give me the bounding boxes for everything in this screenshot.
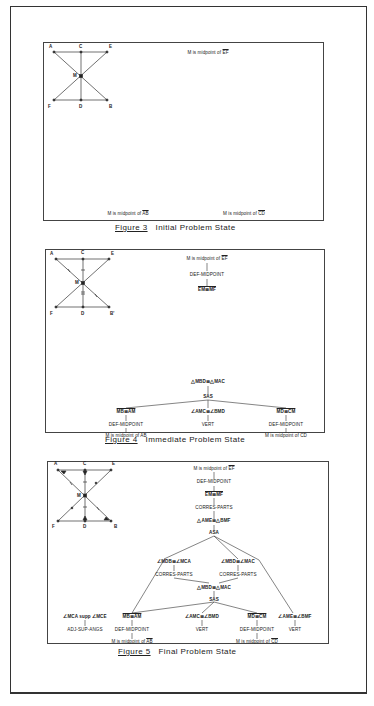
goal-triangle-congruence: △MBD≅△MAC [191, 379, 225, 385]
point-label-a: A [54, 461, 57, 466]
given-ab: M is midpoint of AB [111, 639, 152, 645]
point-label-b: B [114, 524, 117, 529]
rule-corres-parts-left: CORRES-PARTS [155, 572, 192, 578]
given-cd: M is midpoint of CD [265, 433, 307, 439]
rule-vert: VERT [202, 422, 215, 428]
rule-def-midpoint: DEF-MIDPOINT [190, 272, 224, 278]
given-cd: M is midpoint of CD [223, 211, 265, 217]
point-label-m: M [77, 493, 81, 498]
given-cd: M is midpoint of CD [236, 639, 278, 645]
statement-mb-am: MB≅AM [123, 614, 142, 620]
point-label-c: C [81, 250, 84, 255]
statement-mb-am: MB≅AM [117, 409, 136, 415]
statement-triangle-mbd-mac: △MBD≅△MAC [197, 585, 231, 591]
statement-md-cm: MD≅CM [277, 409, 296, 415]
point-label-e: E [111, 251, 114, 256]
point-label-d: D [81, 311, 84, 316]
rule-corres-parts-top: CORRES-PARTS [195, 505, 232, 511]
rule-asa: ASA [209, 530, 219, 536]
statement-angle-ame-bmf: ∠AME≅∠BMF [278, 614, 311, 620]
point-label-c: C [79, 44, 82, 49]
point-label-f: F [52, 524, 55, 529]
rule-def-midpoint-right: DEF-MIDPOINT [269, 422, 303, 428]
rule-def-midpoint-left: DEF-MIDPOINT [109, 422, 143, 428]
point-label-f: F [50, 311, 53, 316]
point-label-e: E [109, 44, 112, 49]
statement-angle-mbd-mac: ∠MBD≅∠MAC [221, 559, 255, 565]
rule-adj-sup-angs: ADJ-SUP-ANGS [67, 627, 102, 633]
point-label-e: E [112, 461, 115, 466]
rule-sas: SAS [209, 597, 219, 603]
point-label-d: D [83, 524, 86, 529]
point-label-b: B' [110, 311, 114, 316]
figure-4-geometry [46, 250, 326, 434]
rule-vert-right: VERT [289, 627, 302, 633]
rule-sas: SAS [203, 394, 213, 400]
figure-4-panel: A C E M F D B' M is midpoint of EF DEF-M… [45, 249, 325, 433]
point-label-b: B [109, 104, 112, 109]
point-label-c: C [83, 461, 86, 466]
given-ab: M is midpoint of AB [107, 211, 148, 217]
rule-def-midpoint-right: DEF-MIDPOINT [240, 627, 274, 633]
statement-md-cm: MD≅CM [248, 614, 267, 620]
given-ef: M is midpoint of EF [187, 50, 228, 56]
statement-angle-mca-supp-mce: ∠MCA supp ∠MCE [63, 614, 106, 620]
statement-angle-amc-bmd: ∠AMC≅∠BMD [191, 409, 225, 415]
statement-angle-amc-bmd: ∠AMC≅∠BMD [185, 614, 219, 620]
statement-triangle-ame-bmf: △AME≅△BMF [197, 518, 230, 524]
figure-3-geometry [44, 43, 325, 222]
point-label-d: D [79, 104, 82, 109]
point-label-a: A [49, 44, 52, 49]
rule-def-midpoint-top: DEF-MIDPOINT [197, 479, 231, 485]
point-label-f: F [48, 104, 51, 109]
given-ef: M is midpoint of EF [193, 466, 234, 472]
figure-5-panel: A C E M F D B M is midpoint of EF DEF-MI… [47, 461, 329, 644]
point-label-a: A [50, 251, 53, 256]
figure-3-panel: A C E M F D B M is midpoint of EF M is m… [43, 42, 324, 221]
figure-3-caption: Figure 3Initial Problem State [115, 223, 236, 232]
point-label-m: M [73, 73, 77, 78]
point-label-m: M [75, 280, 79, 285]
statement-angle-mdb-mca: ∠MDB≅∠MCA [157, 559, 191, 565]
rule-corres-parts-right: CORRES-PARTS [219, 572, 256, 578]
figure-4-caption: Figure 4Immediate Problem State [105, 435, 245, 444]
statement-em-mf: EM≅MF [198, 287, 216, 293]
rule-vert-center: VERT [196, 627, 209, 633]
statement-em-mf: EM≅MF [205, 492, 223, 498]
given-ef: M is midpoint of EF [186, 256, 227, 262]
figure-5-caption: Figure 5Final Problem State [118, 647, 236, 656]
rule-def-midpoint-left: DEF-MIDPOINT [115, 627, 149, 633]
